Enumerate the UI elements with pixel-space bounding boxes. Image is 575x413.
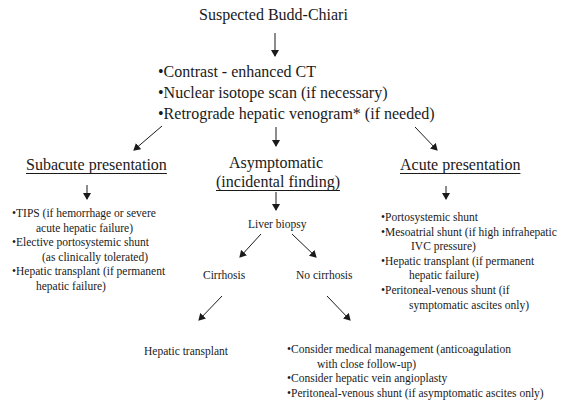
arrow-to-acute xyxy=(415,127,437,150)
liver-biopsy: Liver biopsy xyxy=(248,217,306,232)
arrow-to-hepatic-transplant xyxy=(199,296,222,320)
arrow-to-no-cirrhosis xyxy=(292,234,316,257)
workup-item: •Contrast - enhanced CT xyxy=(158,61,435,82)
no-cirrhosis-list: •Consider medical management (anticoagul… xyxy=(287,342,544,400)
subacute-item: •TIPS (if hemorrhage or severe xyxy=(12,206,165,221)
asymptomatic-heading: Asymptomatic (incidental finding) xyxy=(216,153,336,191)
subacute-list: •TIPS (if hemorrhage or severe acute hep… xyxy=(12,206,165,294)
hepatic-transplant-outcome: Hepatic transplant xyxy=(144,344,228,359)
acute-item: •Peritoneal-venous shunt (if xyxy=(381,283,557,298)
acute-item: •Hepatic transplant (if permanent xyxy=(381,254,557,269)
acute-list: •Portosystemic shunt •Mesoatrial shunt (… xyxy=(381,210,557,312)
arrow-to-no-cirrhosis-list xyxy=(327,296,350,320)
subacute-item: •Elective portosystemic shunt xyxy=(12,235,165,250)
workup-list: •Contrast - enhanced CT •Nuclear isotope… xyxy=(158,61,435,124)
no-cirrhosis-label: No cirrhosis xyxy=(296,268,353,283)
acute-heading: Acute presentation xyxy=(400,156,520,174)
arrow-to-subacute xyxy=(134,126,162,150)
arrow-to-cirrhosis xyxy=(240,234,261,257)
title-suspected-budd-chiari: Suspected Budd-Chiari xyxy=(199,6,348,24)
no-cirrhosis-item: •Peritoneal-venous shunt (if asymptomati… xyxy=(287,386,544,401)
workup-item: •Retrograde hepatic venogram* (if needed… xyxy=(158,103,435,124)
subacute-heading: Subacute presentation xyxy=(26,156,167,174)
no-cirrhosis-item: •Consider medical management (anticoagul… xyxy=(287,342,544,357)
no-cirrhosis-item: •Consider hepatic vein angioplasty xyxy=(287,371,544,386)
acute-item: •Portosystemic shunt xyxy=(381,210,557,225)
workup-item: •Nuclear isotope scan (if necessary) xyxy=(158,82,435,103)
subacute-item: •Hepatic transplant (if permanent xyxy=(12,264,165,279)
acute-item: •Mesoatrial shunt (if high infrahepatic xyxy=(381,225,557,240)
cirrhosis-label: Cirrhosis xyxy=(203,268,245,283)
